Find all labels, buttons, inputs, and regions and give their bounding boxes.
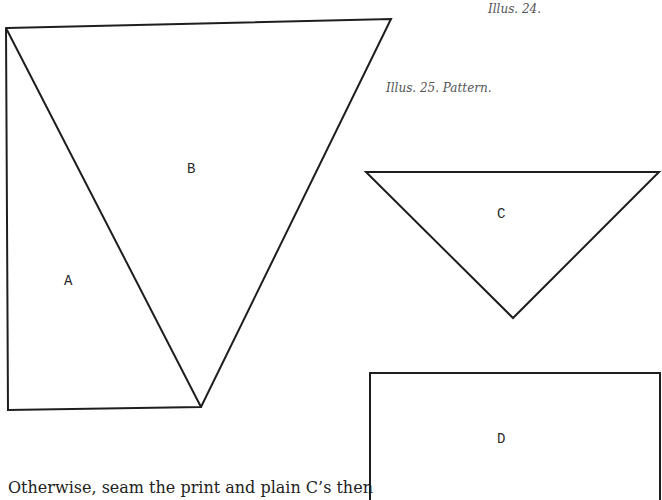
illus-24-outline — [6, 19, 391, 410]
illus-25-figure: C D — [366, 172, 660, 500]
caption-illus-25: Illus. 25. Pattern. — [386, 81, 492, 95]
illus-24-diagonal — [7, 30, 201, 407]
quilt-block-diagram: B A C D — [0, 0, 662, 500]
piece-label-c: C — [497, 206, 505, 222]
illus-24-figure: B A — [6, 19, 391, 410]
pattern-piece-c — [366, 172, 659, 318]
piece-label-b: B — [187, 161, 195, 177]
piece-label-a: A — [64, 273, 73, 289]
body-text-line: Otherwise, seam the print and plain C’s … — [8, 478, 373, 497]
piece-label-d: D — [497, 431, 505, 447]
pattern-piece-d — [370, 373, 660, 500]
caption-illus-24: Illus. 24. — [488, 2, 541, 16]
